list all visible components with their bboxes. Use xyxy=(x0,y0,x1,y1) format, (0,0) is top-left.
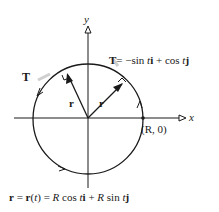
point-label: (R, 0) xyxy=(141,124,167,135)
radius-label-left: r xyxy=(69,98,74,109)
smudge xyxy=(38,74,50,80)
circle-motion-diagram xyxy=(0,0,219,212)
y-axis-label: y xyxy=(84,14,89,25)
point-r-0 xyxy=(141,116,145,120)
radius-label-right: r xyxy=(99,98,104,109)
tangent-equation: T= −sin ti + cos tj xyxy=(109,55,189,66)
position-equation: r = r(t) = R cos ti + R sin tj xyxy=(9,192,129,203)
y-axis-arrow-icon xyxy=(85,26,91,33)
direction-arrow-icon xyxy=(137,101,142,108)
tangent-label: T xyxy=(22,71,30,83)
x-axis-arrow-icon xyxy=(179,115,186,121)
x-axis-label: x xyxy=(189,112,194,123)
